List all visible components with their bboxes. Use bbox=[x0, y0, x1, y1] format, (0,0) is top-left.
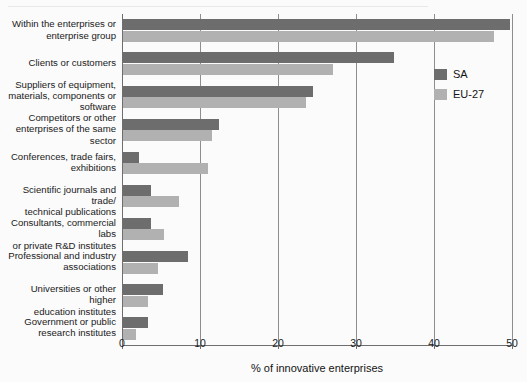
gridline bbox=[512, 14, 513, 345]
category-label-line: Professional and industry bbox=[4, 250, 116, 261]
x-axis-tick-label: 10 bbox=[194, 337, 206, 349]
plot-area bbox=[122, 14, 512, 345]
legend-swatch-sa bbox=[434, 69, 447, 80]
bar-eu27 bbox=[123, 97, 306, 108]
legend-label-sa: SA bbox=[453, 68, 468, 80]
bar-eu27 bbox=[123, 130, 212, 141]
category-label: Scientific journals and trade/technical … bbox=[4, 184, 116, 218]
category-label: Government or publicresearch institutes bbox=[4, 316, 116, 339]
bar-eu27 bbox=[123, 263, 158, 274]
bar-sa bbox=[123, 185, 151, 196]
bar-sa bbox=[123, 152, 139, 163]
bar-eu27 bbox=[123, 64, 333, 75]
category-label-line: research institutes bbox=[4, 327, 116, 338]
legend-swatch-eu27 bbox=[434, 89, 447, 100]
bar-sa bbox=[123, 284, 163, 295]
category-label-line: Universities or other higher bbox=[4, 283, 116, 306]
category-label-line: Scientific journals and trade/ bbox=[4, 184, 116, 207]
bar-eu27 bbox=[123, 296, 148, 307]
category-label-line: exhibitions bbox=[4, 162, 116, 173]
legend-item-eu27: EU-27 bbox=[434, 88, 484, 100]
category-label-line: materials, components or bbox=[4, 90, 116, 101]
bar-sa bbox=[123, 52, 394, 63]
category-label-line: Consultants, commercial labs bbox=[4, 217, 116, 240]
bar-eu27 bbox=[123, 229, 164, 240]
chart-legend: SA EU-27 bbox=[434, 68, 484, 108]
x-axis-line bbox=[122, 345, 512, 346]
bar-sa bbox=[123, 251, 188, 262]
bar-sa bbox=[123, 218, 151, 229]
category-label: Universities or other highereducation in… bbox=[4, 283, 116, 317]
category-label-line: Government or public bbox=[4, 316, 116, 327]
bar-sa bbox=[123, 119, 219, 130]
legend-item-sa: SA bbox=[434, 68, 484, 80]
category-label-line: associations bbox=[4, 261, 116, 272]
bar-eu27 bbox=[123, 163, 208, 174]
x-axis-tick-label: 50 bbox=[506, 337, 518, 349]
category-label: Suppliers of equipment,materials, compon… bbox=[4, 79, 116, 113]
bar-sa bbox=[123, 86, 313, 97]
category-label-line: Competitors or other bbox=[4, 112, 116, 123]
category-label-line: Within the enterprises or bbox=[4, 18, 116, 29]
category-label: Competitors or otherenterprises of the s… bbox=[4, 112, 116, 146]
category-label-line: enterprise group bbox=[4, 30, 116, 41]
category-label-line: Conferences, trade fairs, bbox=[4, 151, 116, 162]
x-axis-tick-label: 0 bbox=[119, 337, 125, 349]
category-label: Conferences, trade fairs,exhibitions bbox=[4, 151, 116, 174]
category-label-line: enterprises of the same bbox=[4, 123, 116, 134]
category-label: Within the enterprises orenterprise grou… bbox=[4, 18, 116, 41]
x-axis-title: % of innovative enterprises bbox=[122, 362, 512, 374]
category-label: Consultants, commercial labsor private R… bbox=[4, 217, 116, 251]
bar-chart: SA EU-27 % of innovative enterprises 010… bbox=[0, 0, 527, 382]
x-axis-tick-label: 30 bbox=[350, 337, 362, 349]
x-axis-tick-label: 40 bbox=[428, 337, 440, 349]
bar-eu27 bbox=[123, 196, 179, 207]
category-label-line: sector bbox=[4, 135, 116, 146]
category-label-line: Clients or customers bbox=[4, 57, 116, 68]
category-label-line: Suppliers of equipment, bbox=[4, 79, 116, 90]
bar-eu27 bbox=[123, 31, 494, 42]
legend-label-eu27: EU-27 bbox=[453, 88, 484, 100]
bar-sa bbox=[123, 317, 148, 328]
category-label: Professional and industryassociations bbox=[4, 250, 116, 273]
gridline bbox=[434, 14, 435, 345]
x-axis-tick-label: 20 bbox=[272, 337, 284, 349]
category-label: Clients or customers bbox=[4, 57, 116, 68]
top-divider bbox=[8, 6, 428, 7]
bar-sa bbox=[123, 19, 510, 30]
gridline bbox=[356, 14, 357, 345]
